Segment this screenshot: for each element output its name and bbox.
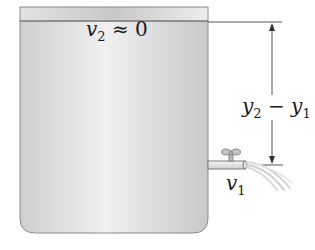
outlet-velocity-sub: 1: [237, 183, 245, 198]
water-jet: [247, 162, 292, 190]
height-sub-b: 1: [302, 106, 310, 121]
outlet-velocity-var: v: [226, 171, 237, 195]
tank-diagram: [0, 0, 315, 250]
tank-liquid: [20, 21, 208, 233]
surface-velocity-value: ≈ 0: [106, 17, 148, 41]
height-var-a: y: [242, 94, 253, 118]
surface-velocity-sub: 2: [97, 29, 105, 44]
height-sub-a: 2: [253, 106, 261, 121]
height-operator: −: [262, 94, 291, 118]
arrow-down-icon: [269, 156, 275, 164]
spout-pipe: [208, 161, 245, 169]
height-difference-label: y2 − y1: [241, 96, 312, 120]
arrow-up-icon: [269, 23, 275, 31]
height-var-b: y: [291, 94, 302, 118]
surface-velocity-label: v2 ≈ 0: [86, 19, 148, 43]
valve-handle-icon: [222, 149, 241, 161]
surface-velocity-var: v: [86, 17, 97, 41]
outlet-velocity-label: v1: [226, 173, 246, 197]
